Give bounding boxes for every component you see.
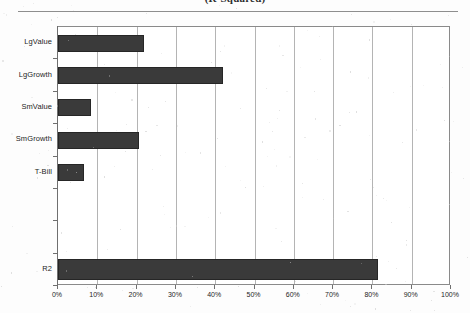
scan-speckle (304, 137, 306, 138)
x-axis-tick-label: 10% (78, 291, 114, 298)
scan-speckle (148, 107, 149, 108)
scan-speckle (57, 105, 58, 107)
scan-speckle (67, 169, 68, 171)
x-axis-tick (332, 285, 333, 289)
scan-speckle (12, 226, 13, 227)
scan-speckle (431, 300, 432, 301)
scan-speckle (75, 34, 76, 35)
scan-speckle (388, 261, 389, 262)
scan-speckle (339, 125, 341, 126)
scan-speckle (61, 232, 62, 234)
x-axis-tick (371, 285, 372, 289)
scan-speckle (369, 39, 370, 41)
scan-speckle (31, 24, 32, 25)
scan-speckle (104, 64, 105, 65)
scan-speckle (76, 172, 77, 173)
gridline-x (255, 27, 256, 284)
scan-speckle (163, 206, 164, 207)
scan-speckle (329, 130, 331, 132)
scan-speckle (152, 169, 153, 170)
scan-speckle (145, 131, 147, 132)
scan-speckle (314, 91, 315, 92)
scan-speckle (351, 14, 352, 15)
scan-speckle (26, 253, 28, 254)
scan-speckle (240, 108, 241, 109)
scan-speckle (33, 3, 34, 4)
scan-speckle (323, 199, 324, 200)
gridline-x (412, 27, 413, 284)
y-axis-category-label: LgValue (0, 37, 52, 46)
scan-speckle (231, 72, 232, 74)
scan-speckle (125, 151, 126, 152)
scan-speckle (451, 172, 452, 173)
scan-speckle (272, 131, 273, 132)
scan-speckle (448, 15, 449, 16)
y-axis (57, 26, 58, 285)
x-axis-tick-label: 20% (118, 291, 154, 298)
scan-speckle (279, 45, 280, 47)
scan-speckle (406, 240, 407, 241)
scan-speckle (444, 120, 445, 121)
scan-speckle (275, 228, 277, 229)
scan-speckle (67, 128, 68, 129)
scan-speckle (47, 165, 49, 166)
scan-speckle (6, 14, 7, 16)
scan-speckle (2, 60, 4, 62)
scan-speckle (281, 241, 282, 242)
scan-speckle (68, 40, 69, 41)
scan-speckle (361, 263, 362, 264)
gridline-x (215, 27, 216, 284)
scan-speckle (32, 103, 34, 104)
y-axis-tick (53, 58, 57, 59)
scan-speckle (236, 8, 237, 9)
scan-speckle (356, 111, 357, 113)
scan-speckle (347, 211, 349, 212)
scan-speckle (208, 217, 209, 218)
scan-speckle (333, 218, 334, 219)
scan-speckle (449, 141, 450, 142)
y-axis-tick (53, 220, 57, 221)
scan-speckle (238, 286, 239, 287)
scan-speckle (405, 281, 406, 282)
scan-speckle (350, 306, 351, 307)
scan-speckle (39, 153, 40, 154)
scan-speckle (11, 133, 13, 135)
y-axis-category-label: SmGrowth (0, 134, 52, 143)
scan-speckle (70, 182, 71, 183)
scan-speckle (185, 152, 186, 153)
bar (58, 67, 223, 84)
scan-speckle (391, 222, 392, 223)
scan-speckle (57, 17, 58, 18)
scan-speckle (73, 10, 74, 11)
scan-speckle (95, 287, 96, 288)
scan-speckle (160, 155, 161, 156)
scan-speckle (190, 306, 191, 307)
gridline-x (176, 27, 177, 284)
x-axis-tick (450, 285, 451, 289)
scan-speckle (177, 125, 178, 127)
x-axis-tick-label: 80% (353, 291, 389, 298)
chart-title: (R-Squared) (0, 0, 470, 4)
scan-speckle (368, 77, 369, 79)
scan-speckle (320, 59, 321, 60)
scan-speckle (37, 177, 38, 179)
x-axis-tick-label: 70% (314, 291, 350, 298)
scan-speckle (307, 30, 308, 31)
scan-speckle (376, 256, 377, 257)
scan-speckle (317, 159, 318, 160)
bar (58, 132, 139, 149)
scan-speckle (120, 229, 121, 230)
x-axis-tick-label: 50% (236, 291, 272, 298)
scanned-page: (R-Squared) 0%10%20%30%40%50%60%70%80%90… (0, 0, 470, 313)
scan-speckle (93, 147, 94, 148)
scan-speckle (289, 156, 291, 158)
x-axis-tick (214, 285, 215, 289)
scan-speckle (156, 125, 158, 126)
x-axis-tick (254, 285, 255, 289)
scan-speckle (332, 26, 333, 27)
scan-speckle (279, 110, 280, 111)
scan-speckle (217, 138, 218, 139)
scan-speckle (116, 130, 117, 131)
bar (58, 35, 144, 52)
scan-speckle (51, 19, 52, 21)
